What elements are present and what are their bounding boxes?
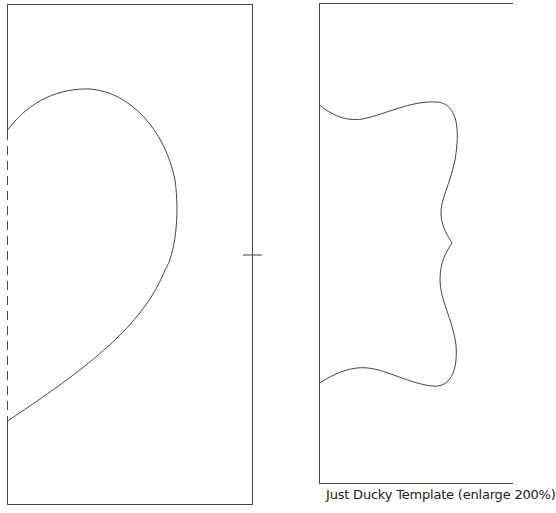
right-panel-border <box>320 4 514 484</box>
right-panel-curve <box>320 102 458 386</box>
left-panel-curve <box>8 89 177 421</box>
left-panel-border <box>8 5 253 505</box>
template-caption: Just Ducky Template (enlarge 200%) <box>326 487 556 502</box>
